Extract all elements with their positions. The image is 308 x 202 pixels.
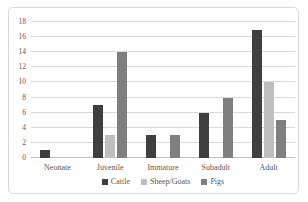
legend-item-sheep-goats: Sheep/Goats: [141, 177, 190, 186]
x-axis: NeonateJuvenileImmatureSubadultAdult: [31, 163, 295, 172]
bar-cattle-subadult: [199, 113, 209, 158]
x-category-label-adult: Adult: [242, 163, 295, 172]
bar-cattle-juvenile: [93, 105, 103, 158]
legend-label-pigs: Pigs: [210, 177, 224, 186]
bar-pigs-subadult: [223, 98, 233, 158]
bar-group-neonate: [31, 22, 84, 158]
legend-swatch-sheep-goats: [141, 179, 147, 185]
bar-pigs-immature: [170, 135, 180, 158]
bar-sheep-goats-juvenile: [105, 135, 115, 158]
x-category-label-juvenile: Juvenile: [84, 163, 137, 172]
legend-label-cattle: Cattle: [111, 177, 130, 186]
y-tick-label-0: 0: [12, 154, 26, 162]
legend: CattleSheep/GoatsPigs: [31, 177, 295, 186]
y-tick-label-14: 14: [12, 48, 26, 56]
y-tick-label-6: 6: [12, 109, 26, 117]
x-category-label-neonate: Neonate: [31, 163, 84, 172]
bar-group-adult: [242, 22, 295, 158]
bar-pigs-juvenile: [117, 52, 127, 158]
bar-sheep-goats-adult: [264, 82, 274, 158]
y-tick-label-16: 16: [12, 33, 26, 41]
chart-frame: 024681012141618 NeonateJuvenileImmatureS…: [8, 7, 299, 194]
y-tick-label-4: 4: [12, 124, 26, 132]
bar-group-juvenile: [84, 22, 137, 158]
y-tick-label-18: 18: [12, 18, 26, 26]
x-category-label-immature: Immature: [137, 163, 190, 172]
bar-cattle-neonate: [40, 150, 50, 158]
bar-group-subadult: [189, 22, 242, 158]
legend-swatch-cattle: [102, 179, 108, 185]
y-tick-label-2: 2: [12, 139, 26, 147]
bar-cattle-adult: [252, 30, 262, 158]
bar-groups: [31, 22, 295, 158]
screen: 024681012141618 NeonateJuvenileImmatureS…: [0, 0, 308, 202]
legend-swatch-pigs: [201, 179, 207, 185]
x-category-label-subadult: Subadult: [189, 163, 242, 172]
bar-cattle-immature: [146, 135, 156, 158]
legend-item-cattle: Cattle: [102, 177, 130, 186]
legend-item-pigs: Pigs: [201, 177, 224, 186]
y-tick-label-12: 12: [12, 63, 26, 71]
bar-group-immature: [137, 22, 190, 158]
y-tick-label-8: 8: [12, 94, 26, 102]
y-tick-label-10: 10: [12, 78, 26, 86]
plot-area: 024681012141618: [31, 22, 295, 158]
legend-label-sheep-goats: Sheep/Goats: [150, 177, 190, 186]
bar-pigs-adult: [276, 120, 286, 158]
